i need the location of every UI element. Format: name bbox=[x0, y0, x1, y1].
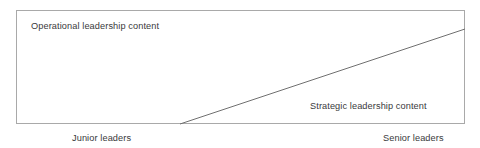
axis-label-junior-leaders: Junior leaders bbox=[72, 133, 131, 144]
strategic-content-label: Strategic leadership content bbox=[310, 101, 427, 112]
diagram-canvas: Operational leadership content Strategic… bbox=[0, 0, 480, 148]
axis-label-senior-leaders: Senior leaders bbox=[383, 133, 444, 144]
operational-content-label: Operational leadership content bbox=[31, 21, 159, 32]
